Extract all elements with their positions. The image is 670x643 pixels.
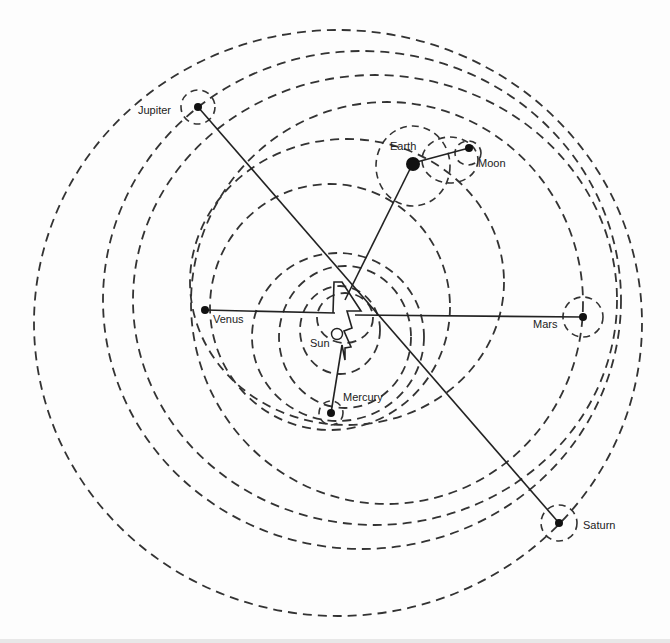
orbit-sun — [317, 293, 373, 343]
label-moon: Moon — [478, 157, 506, 169]
label-saturn: Saturn — [583, 519, 615, 531]
epicycle-moon — [422, 137, 478, 183]
label-mercury: Mercury — [343, 391, 383, 403]
line-mars — [355, 315, 583, 317]
planet-venus — [201, 306, 209, 314]
orbit-earth — [190, 139, 504, 425]
label-jupiter: Jupiter — [138, 104, 171, 116]
label-mars: Mars — [533, 318, 557, 330]
orbit-mars — [191, 102, 583, 504]
planet-jupiter — [194, 103, 202, 111]
orbit-jupiter — [103, 51, 621, 549]
label-venus: Venus — [213, 313, 244, 325]
label-earth: Earth — [390, 140, 416, 152]
planet-moon — [465, 144, 473, 152]
sun-symbol — [332, 329, 343, 340]
planet-saturn — [555, 519, 563, 527]
planet-mercury — [327, 409, 335, 417]
label-sun: Sun — [310, 337, 330, 349]
orbit-venus — [210, 184, 450, 430]
planet-earth — [406, 157, 420, 171]
solar-system-diagram: Jupiter Earth Moon Venus Mars Sun Mercur… — [0, 0, 670, 643]
line-earth — [345, 163, 413, 300]
orbit-diagram-svg — [0, 0, 670, 643]
orbit-outer-3 — [133, 75, 617, 525]
planet-mars — [579, 313, 587, 321]
bottom-edge — [0, 639, 670, 643]
